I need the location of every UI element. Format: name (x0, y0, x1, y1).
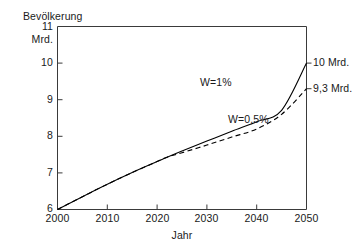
x-tick-label-2000: 2000 (34, 212, 81, 224)
x-tick-marks (107, 205, 256, 210)
x-tick-label-2040: 2040 (233, 212, 280, 224)
y-tick-label-9: 9 (20, 93, 53, 105)
x-axis-title: Jahr (152, 229, 212, 241)
x-tick-label-2010: 2010 (84, 212, 131, 224)
series-line-w05 (58, 89, 307, 210)
series-annotation-w05: W=0,5% (228, 113, 269, 125)
population-growth-chart: Bevölkerung 11 Mrd. 10 9 8 7 6 2000 2010… (0, 0, 360, 250)
end-label-tick-marks (307, 63, 312, 89)
x-tick-label-2020: 2020 (134, 212, 181, 224)
end-label-w1: 10 Mrd. (313, 56, 349, 68)
x-tick-label-2050: 2050 (283, 212, 330, 224)
x-tick-label-2030: 2030 (183, 212, 230, 224)
series-annotation-w1: W=1% (200, 76, 232, 88)
y-tick-marks (58, 63, 63, 173)
y-tick-label-7: 7 (20, 166, 53, 178)
y-axis-unit-label: Mrd. (12, 33, 53, 45)
series-line-w1 (58, 63, 307, 209)
y-tick-label-8: 8 (20, 129, 53, 141)
end-label-w05: 9,3 Mrd. (313, 82, 352, 94)
y-tick-label-10: 10 (20, 56, 53, 68)
y-tick-label-11: 11 (20, 20, 53, 32)
